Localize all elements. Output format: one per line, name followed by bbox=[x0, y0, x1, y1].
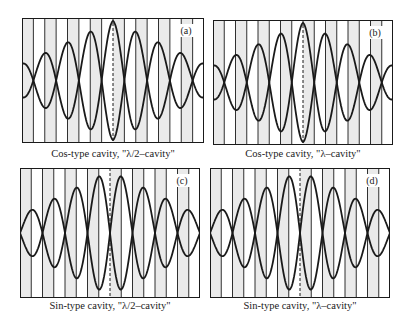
panel-b-plot: (b) bbox=[213, 20, 393, 145]
panel-label: (b) bbox=[369, 27, 381, 39]
panel-a: (a) bbox=[22, 18, 204, 143]
panel-label: (d) bbox=[366, 175, 378, 187]
panel-d-plot: (d) bbox=[210, 168, 390, 298]
panel-b-caption: Cos-type cavity, "λ–cavity" bbox=[213, 148, 393, 159]
panel-a-caption: Cos-type cavity, "λ/2–cavity" bbox=[23, 148, 203, 159]
panel-d: (d) bbox=[210, 168, 390, 298]
panel-a-plot: (a) bbox=[22, 18, 204, 143]
panel-label: (c) bbox=[176, 175, 187, 187]
panel-c: (c) bbox=[20, 168, 200, 298]
panel-c-plot: (c) bbox=[20, 168, 200, 298]
panel-c-caption: Sin-type cavity, "λ/2–cavity" bbox=[20, 300, 200, 311]
panel-label: (a) bbox=[180, 25, 191, 37]
panel-b: (b) bbox=[213, 20, 393, 145]
panel-d-caption: Sin-type cavity, "λ–cavity" bbox=[210, 300, 390, 311]
